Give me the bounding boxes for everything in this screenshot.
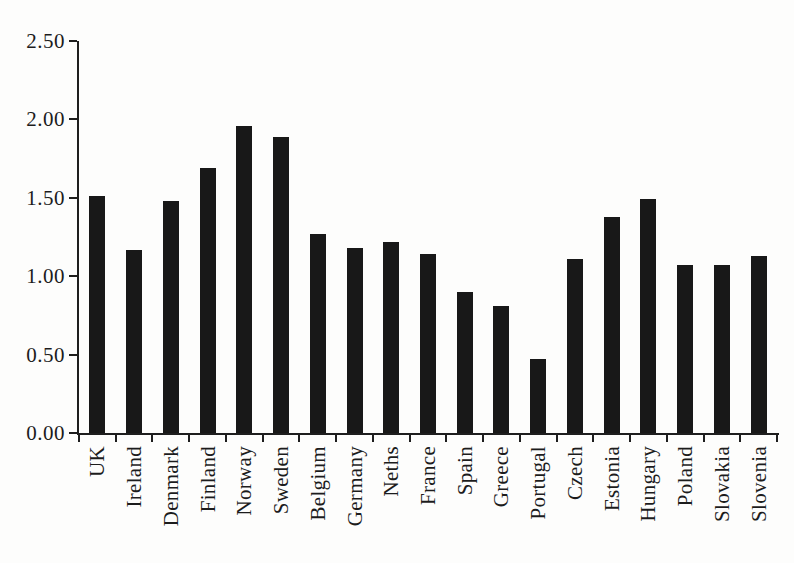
- y-axis-tick-label: 1.50: [3, 186, 65, 210]
- bar-sweden: [273, 137, 289, 433]
- bar-belgium: [310, 234, 326, 433]
- x-axis-tick: [629, 435, 631, 442]
- x-axis-label: Neths: [380, 446, 402, 556]
- x-axis-tick: [445, 435, 447, 442]
- x-axis-tick: [335, 435, 337, 442]
- bar-portugal: [530, 359, 546, 433]
- y-axis-tick: [69, 197, 77, 199]
- x-axis-tick: [188, 435, 190, 442]
- x-axis-label: Norway: [233, 446, 255, 556]
- bar-france: [420, 254, 436, 433]
- x-axis-tick: [78, 435, 80, 442]
- bar-chart-figure: 0.000.501.001.502.002.50UKIrelandDenmark…: [0, 0, 794, 563]
- x-axis-tick: [409, 435, 411, 442]
- bar-greece: [493, 306, 509, 433]
- x-axis-line: [77, 433, 779, 435]
- bar-czech: [567, 259, 583, 433]
- x-axis-label: UK: [86, 446, 108, 556]
- x-axis-label: Ireland: [123, 446, 145, 556]
- bar-hungary: [640, 199, 656, 433]
- x-axis-label: Slovenia: [748, 446, 770, 556]
- x-axis-label: Greece: [490, 446, 512, 556]
- x-axis-label: Finland: [197, 446, 219, 556]
- bar-ireland: [126, 250, 142, 433]
- x-axis-tick: [703, 435, 705, 442]
- x-axis-label: Estonia: [601, 446, 623, 556]
- y-axis-tick-label: 2.00: [3, 107, 65, 131]
- x-axis-label: Slovakia: [711, 446, 733, 556]
- y-axis-tick: [69, 275, 77, 277]
- y-axis-tick: [69, 432, 77, 434]
- y-axis-tick-label: 2.50: [3, 29, 65, 53]
- x-axis-label: Poland: [674, 446, 696, 556]
- x-axis-label: Portugal: [527, 446, 549, 556]
- x-axis-tick: [519, 435, 521, 442]
- y-axis-tick: [69, 40, 77, 42]
- bar-uk: [89, 196, 105, 433]
- x-axis-label: Germany: [344, 446, 366, 556]
- bar-finland: [200, 168, 216, 433]
- x-axis-tick: [225, 435, 227, 442]
- x-axis-tick: [151, 435, 153, 442]
- x-axis-tick: [776, 435, 778, 442]
- x-axis-label: Spain: [454, 446, 476, 556]
- x-axis-tick: [262, 435, 264, 442]
- x-axis-label: Hungary: [637, 446, 659, 556]
- x-axis-tick: [592, 435, 594, 442]
- bar-slovakia: [714, 265, 730, 433]
- bar-spain: [457, 292, 473, 433]
- x-axis-tick: [372, 435, 374, 442]
- y-axis-tick: [69, 118, 77, 120]
- x-axis-tick: [556, 435, 558, 442]
- x-axis-label: France: [417, 446, 439, 556]
- x-axis-tick: [482, 435, 484, 442]
- x-axis-tick: [666, 435, 668, 442]
- bar-slovenia: [751, 256, 767, 433]
- bar-estonia: [604, 217, 620, 433]
- x-axis-label: Czech: [564, 446, 586, 556]
- y-axis-tick-label: 1.00: [3, 264, 65, 288]
- x-axis-label: Denmark: [160, 446, 182, 556]
- y-axis-tick: [69, 354, 77, 356]
- y-axis-tick-label: 0.50: [3, 343, 65, 367]
- bar-germany: [347, 248, 363, 433]
- y-axis-tick-label: 0.00: [3, 421, 65, 445]
- bar-neths: [383, 242, 399, 433]
- x-axis-tick: [298, 435, 300, 442]
- bar-poland: [677, 265, 693, 433]
- bar-denmark: [163, 201, 179, 433]
- x-axis-label: Belgium: [307, 446, 329, 556]
- plot-area: 0.000.501.001.502.002.50UKIrelandDenmark…: [0, 0, 794, 563]
- x-axis-tick: [115, 435, 117, 442]
- x-axis-tick: [739, 435, 741, 442]
- bar-norway: [236, 126, 252, 433]
- x-axis-label: Sweden: [270, 446, 292, 556]
- y-axis-line: [77, 41, 79, 435]
